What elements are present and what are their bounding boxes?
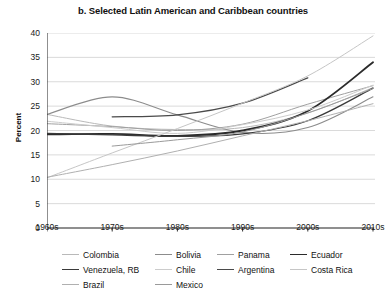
series-line-brazil bbox=[47, 104, 373, 178]
legend-swatch-icon bbox=[290, 254, 307, 255]
legend-label: Panama bbox=[238, 250, 270, 260]
legend-swatch-icon bbox=[217, 254, 234, 255]
y-tick-label: 15 bbox=[14, 150, 40, 160]
y-tick-label: 40 bbox=[14, 28, 40, 38]
legend-label: Ecuador bbox=[311, 250, 343, 260]
legend-row: BrazilMexico bbox=[0, 277, 386, 292]
x-tick-label: 2010s bbox=[361, 222, 384, 232]
legend-label: Chile bbox=[176, 265, 195, 275]
y-tick-label: 5 bbox=[14, 199, 40, 209]
y-tick-label: 35 bbox=[14, 52, 40, 62]
legend-item-chile[interactable]: Chile bbox=[155, 265, 195, 275]
legend-swatch-icon bbox=[155, 254, 172, 255]
legend-item-bolivia[interactable]: Bolivia bbox=[155, 250, 201, 260]
legend-swatch-icon bbox=[290, 269, 307, 270]
legend-label: Argentina bbox=[238, 265, 274, 275]
legend-label: Bolivia bbox=[176, 250, 201, 260]
legend-item-mexico[interactable]: Mexico bbox=[155, 280, 203, 290]
series-line-argentina bbox=[112, 78, 308, 117]
chart-figure: b. Selected Latin American and Caribbean… bbox=[0, 0, 386, 296]
series-line-chile bbox=[47, 85, 373, 133]
series-line-colombia bbox=[47, 88, 373, 130]
x-tick-label: 1960s bbox=[35, 222, 58, 232]
legend-swatch-icon bbox=[155, 269, 172, 270]
plot-lines bbox=[47, 33, 375, 240]
y-axis-ticks: 0510152025303540 bbox=[14, 25, 40, 235]
legend-item-argentina[interactable]: Argentina bbox=[217, 265, 274, 275]
chart-legend: ColombiaBoliviaPanamaEcuadorVenezuela, R… bbox=[0, 247, 386, 292]
y-tick-label: 20 bbox=[14, 126, 40, 136]
legend-swatch-icon bbox=[62, 254, 79, 255]
legend-swatch-icon bbox=[155, 284, 172, 285]
chart-svg bbox=[47, 33, 375, 236]
y-tick-label: 25 bbox=[14, 101, 40, 111]
legend-label: Colombia bbox=[83, 250, 119, 260]
legend-item-costa-rica[interactable]: Costa Rica bbox=[290, 265, 353, 275]
legend-label: Brazil bbox=[83, 280, 104, 290]
y-tick-label: 30 bbox=[14, 77, 40, 87]
legend-row: Venezuela, RBChileArgentinaCosta Rica bbox=[0, 262, 386, 277]
chart-title: b. Selected Latin American and Caribbean… bbox=[0, 5, 386, 16]
legend-item-venezuela-rb[interactable]: Venezuela, RB bbox=[62, 265, 139, 275]
legend-swatch-icon bbox=[62, 284, 79, 285]
x-tick-label: 1990s bbox=[231, 222, 254, 232]
x-tick-label: 2000s bbox=[296, 222, 319, 232]
legend-swatch-icon bbox=[217, 269, 234, 270]
legend-label: Mexico bbox=[176, 280, 203, 290]
series-line-bolivia bbox=[47, 97, 373, 134]
legend-item-panama[interactable]: Panama bbox=[217, 250, 270, 260]
legend-item-colombia[interactable]: Colombia bbox=[62, 250, 119, 260]
x-tick-label: 1970s bbox=[101, 222, 124, 232]
x-axis-ticks: 1960s1970s1980s1990s2000s2010s bbox=[0, 222, 386, 236]
legend-swatch-icon bbox=[62, 269, 79, 270]
y-tick-label: 10 bbox=[14, 174, 40, 184]
legend-item-brazil[interactable]: Brazil bbox=[62, 280, 104, 290]
legend-label: Costa Rica bbox=[311, 265, 353, 275]
legend-item-ecuador[interactable]: Ecuador bbox=[290, 250, 343, 260]
x-tick-label: 1980s bbox=[166, 222, 189, 232]
legend-row: ColombiaBoliviaPanamaEcuador bbox=[0, 247, 386, 262]
plot-area: Percent 0510152025303540 bbox=[0, 25, 386, 235]
legend-label: Venezuela, RB bbox=[83, 265, 139, 275]
